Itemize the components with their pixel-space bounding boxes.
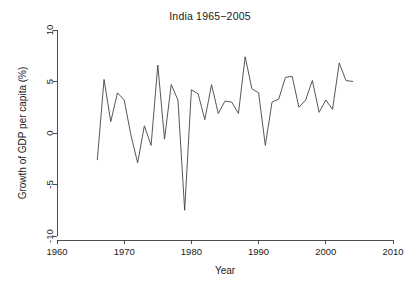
x-axis-tick-label: 2010: [382, 246, 403, 257]
x-axis-label: Year: [215, 265, 236, 276]
line-chart-plot: -10-50510 196019701980199020002010 YearG…: [0, 0, 420, 284]
x-axis-tick-label: 1970: [114, 246, 135, 257]
y-axis-label: Growth of GDP per capita (%): [17, 67, 28, 200]
data-series-group: [97, 57, 352, 210]
x-axis-tick-label: 2000: [315, 246, 336, 257]
y-axis-tick-label: 0: [44, 130, 55, 135]
data-series-line: [97, 57, 352, 210]
axis-labels-group: YearGrowth of GDP per capita (%): [17, 67, 236, 276]
chart-figure: India 1965−2005 -10-50510 19601970198019…: [0, 0, 420, 284]
y-axis: -10-50510: [44, 25, 58, 243]
y-axis-tick-label: 5: [44, 79, 55, 84]
y-axis-tick-label: -5: [44, 180, 55, 188]
x-axis-tick-label: 1980: [181, 246, 202, 257]
x-axis: 196019701980199020002010: [46, 240, 403, 257]
x-axis-tick-label: 1990: [248, 246, 269, 257]
x-axis-tick-label: 1960: [46, 246, 67, 257]
y-axis-tick-label: 10: [44, 25, 55, 36]
y-axis-tick-label: -10: [44, 229, 55, 243]
